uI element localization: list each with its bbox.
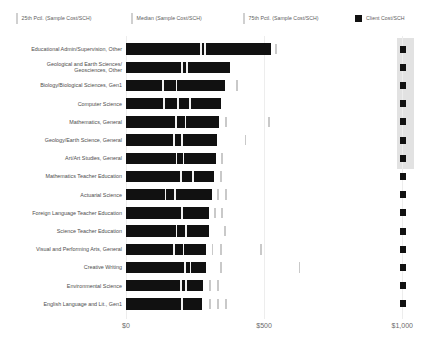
client-cost-marker[interactable] bbox=[400, 137, 405, 144]
client-cost-marker[interactable] bbox=[400, 264, 405, 271]
percentile-tick bbox=[176, 80, 178, 92]
percentile-tick bbox=[221, 208, 223, 219]
percentile-tick bbox=[220, 244, 222, 255]
range-bar[interactable] bbox=[126, 225, 209, 237]
percentile-tick bbox=[260, 244, 262, 255]
percentile-tick bbox=[181, 134, 183, 146]
percentile-tick bbox=[185, 116, 187, 128]
percentile-tick bbox=[174, 189, 176, 201]
category-label: Visual and Performing Arts, General bbox=[36, 246, 122, 252]
percentile-tick bbox=[176, 225, 178, 237]
client-cost-marker[interactable] bbox=[400, 209, 405, 216]
range-bar[interactable] bbox=[126, 262, 206, 274]
percentile-tick bbox=[189, 98, 191, 110]
range-bar[interactable] bbox=[126, 207, 209, 219]
range-bar[interactable] bbox=[126, 62, 230, 74]
percentile-tick bbox=[220, 262, 222, 273]
percentile-tick bbox=[204, 43, 206, 55]
chart-plot-area: Educational Admin/Supervision, OtherGeol… bbox=[0, 36, 434, 319]
legend-label-p25: 25th Pctl. (Sample Cost/SCH) bbox=[22, 11, 92, 25]
percentile-tick bbox=[173, 134, 175, 146]
percentile-tick bbox=[225, 117, 227, 128]
client-cost-marker[interactable] bbox=[400, 282, 405, 289]
client-cost-marker[interactable] bbox=[400, 64, 405, 71]
client-cost-marker[interactable] bbox=[400, 118, 405, 125]
category-label: Actuarial Science bbox=[80, 192, 122, 198]
percentile-tick bbox=[209, 299, 211, 310]
category-label: English Language and Lit., Gen1 bbox=[43, 301, 122, 307]
percentile-tick bbox=[200, 43, 202, 55]
legend-item-client-cost[interactable]: Client Cost/SCH bbox=[355, 11, 405, 25]
percentile-tick bbox=[209, 280, 211, 291]
client-cost-marker[interactable] bbox=[400, 300, 405, 307]
client-cost-marker[interactable] bbox=[400, 191, 405, 198]
percentile-tick bbox=[299, 262, 301, 273]
range-bar[interactable] bbox=[126, 134, 217, 146]
percentile-tick bbox=[181, 298, 183, 310]
range-bar[interactable] bbox=[126, 244, 206, 256]
chart-canvas bbox=[126, 36, 434, 319]
percentile-tick bbox=[225, 299, 227, 310]
percentile-tick bbox=[221, 153, 223, 164]
percentile-tick bbox=[268, 117, 270, 128]
percentile-tick bbox=[180, 280, 182, 292]
category-label: Science Teacher Education bbox=[57, 228, 122, 234]
range-bar[interactable] bbox=[126, 189, 212, 201]
percentile-tick bbox=[225, 189, 227, 200]
percentile-tick bbox=[245, 135, 247, 146]
percentile-tick bbox=[217, 189, 219, 200]
percentile-tick bbox=[183, 153, 185, 165]
category-axis-labels: Educational Admin/Supervision, OtherGeol… bbox=[0, 36, 126, 319]
percentile-tick bbox=[176, 153, 178, 165]
client-cost-marker[interactable] bbox=[400, 173, 405, 180]
category-label: Mathematics Teacher Education bbox=[45, 173, 122, 179]
category-label: Foreign Language Teacher Education bbox=[32, 210, 122, 216]
client-cost-marker[interactable] bbox=[400, 100, 405, 107]
range-bar[interactable] bbox=[126, 171, 214, 183]
category-label: Biology/Biological Sciences, Gen1 bbox=[40, 82, 122, 88]
range-bar[interactable] bbox=[126, 116, 219, 128]
percentile-tick bbox=[212, 244, 214, 255]
client-cost-marker[interactable] bbox=[400, 46, 405, 53]
percentile-tick bbox=[220, 171, 222, 182]
client-cost-marker[interactable] bbox=[400, 228, 405, 235]
client-cost-marker[interactable] bbox=[400, 82, 405, 89]
tick-icon bbox=[243, 13, 245, 24]
legend-label-median: Median (Sample Cost/SCH) bbox=[137, 11, 202, 25]
legend-label-client-cost: Client Cost/SCH bbox=[366, 11, 405, 25]
percentile-tick bbox=[214, 208, 216, 219]
legend-label-p75: 75th Pctl. (Sample Cost/SCH) bbox=[249, 11, 319, 25]
x-tick-label: $500 bbox=[256, 322, 272, 329]
legend-item-median[interactable]: Median (Sample Cost/SCH) bbox=[131, 11, 202, 25]
category-label: Mathematics, General bbox=[69, 119, 122, 125]
range-bar[interactable] bbox=[126, 280, 203, 292]
gridline-500 bbox=[264, 36, 265, 319]
client-cost-marker[interactable] bbox=[400, 155, 405, 162]
percentile-tick bbox=[183, 244, 185, 256]
tick-icon bbox=[131, 13, 133, 24]
category-label: Computer Science bbox=[78, 101, 122, 107]
percentile-tick bbox=[177, 98, 179, 110]
percentile-tick bbox=[190, 262, 192, 274]
x-tick-label: $1,000 bbox=[392, 322, 413, 329]
range-bar[interactable] bbox=[126, 98, 221, 110]
tick-icon bbox=[16, 13, 18, 24]
legend-item-p75[interactable]: 75th Pctl. (Sample Cost/SCH) bbox=[243, 11, 319, 25]
percentile-tick bbox=[186, 62, 188, 74]
percentile-tick bbox=[192, 171, 194, 183]
value-axis: $0$500$1,000 bbox=[126, 322, 434, 342]
percentile-tick bbox=[224, 226, 226, 237]
category-label: Environmental Science bbox=[67, 283, 122, 289]
range-bar[interactable] bbox=[126, 153, 216, 165]
percentile-tick bbox=[165, 189, 167, 201]
range-bar[interactable] bbox=[126, 43, 271, 55]
category-label: Creative Writing bbox=[84, 264, 122, 270]
legend-item-p25[interactable]: 25th Pctl. (Sample Cost/SCH) bbox=[16, 11, 92, 25]
percentile-tick bbox=[185, 225, 187, 237]
percentile-tick bbox=[217, 280, 219, 291]
percentile-tick bbox=[163, 98, 165, 110]
client-cost-marker[interactable] bbox=[400, 246, 405, 253]
chart-legend: 25th Pctl. (Sample Cost/SCH) Median (Sam… bbox=[0, 0, 434, 32]
range-bar[interactable] bbox=[126, 298, 202, 310]
percentile-tick bbox=[275, 44, 277, 55]
